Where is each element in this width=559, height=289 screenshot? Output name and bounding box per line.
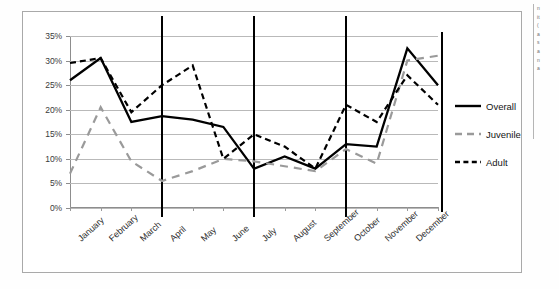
x-axis-label: October bbox=[352, 215, 382, 243]
y-tick-label: 15% bbox=[24, 129, 62, 139]
y-tick-label: 0% bbox=[24, 203, 62, 213]
legend-swatch-overall bbox=[455, 101, 481, 111]
page-text-line: a bbox=[537, 64, 559, 73]
legend-label-juvenile: Juvenile bbox=[486, 129, 521, 140]
page-text-line: it bbox=[537, 13, 559, 22]
chart-figure-frame: 0%5%10%15%20%25%30%35% JanuaryFebruaryMa… bbox=[22, 11, 522, 273]
x-axis-label: May bbox=[199, 225, 218, 244]
legend-label-adult: Adult bbox=[486, 157, 508, 168]
page-text-column: nit(asana bbox=[533, 4, 559, 139]
x-axis-label: August bbox=[291, 218, 318, 244]
y-tick-label: 5% bbox=[24, 178, 62, 188]
x-tick-mark bbox=[438, 207, 439, 211]
y-tick-label: 35% bbox=[24, 31, 62, 41]
y-tick-label: 10% bbox=[24, 154, 62, 164]
chart-legend: Overall Juvenile Adult bbox=[455, 92, 521, 176]
y-tick-label: 25% bbox=[24, 80, 62, 90]
plot-area: 0%5%10%15%20%25%30%35% JanuaryFebruaryMa… bbox=[70, 36, 438, 208]
x-axis-label: March bbox=[138, 220, 163, 244]
legend-swatch-adult bbox=[455, 157, 481, 167]
page-text-line: n bbox=[537, 4, 559, 13]
legend-label-overall: Overall bbox=[486, 101, 516, 112]
legend-item-adult: Adult bbox=[455, 148, 521, 176]
page-text-line: n bbox=[537, 56, 559, 65]
x-axis-label: January bbox=[76, 215, 106, 243]
x-axis-label: April bbox=[168, 224, 188, 243]
y-tick-label: 20% bbox=[24, 105, 62, 115]
plot-wrapper: 0%5%10%15%20%25%30%35% JanuaryFebruaryMa… bbox=[23, 12, 523, 274]
x-axis-label: July bbox=[260, 226, 278, 244]
series-line-adult bbox=[70, 58, 438, 169]
legend-divider-bar bbox=[441, 32, 443, 212]
series-lines bbox=[70, 36, 438, 208]
y-tick-label: 30% bbox=[24, 56, 62, 66]
page-text-line: ( bbox=[537, 21, 559, 30]
x-axis-label: February bbox=[107, 212, 140, 243]
screenshot-page: 0%5%10%15%20%25%30%35% JanuaryFebruaryMa… bbox=[0, 0, 559, 289]
page-text-line: a bbox=[537, 47, 559, 56]
x-axis-label: June bbox=[230, 223, 251, 243]
legend-item-overall: Overall bbox=[455, 92, 521, 120]
legend-swatch-juvenile bbox=[455, 129, 481, 139]
legend-item-juvenile: Juvenile bbox=[455, 120, 521, 148]
series-line-overall bbox=[70, 48, 438, 168]
page-text-line: a bbox=[537, 30, 559, 39]
series-line-juvenile bbox=[70, 56, 438, 181]
x-axis-label: November bbox=[383, 209, 420, 244]
page-text-line: s bbox=[537, 38, 559, 47]
